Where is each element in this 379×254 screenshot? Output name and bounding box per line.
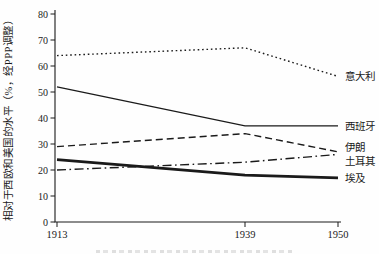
series-label-turkey: 土耳其	[345, 155, 375, 167]
y-tick-label: 10	[38, 191, 48, 202]
y-tick-label: 70	[38, 35, 48, 46]
series-line-italy	[57, 48, 338, 77]
chart: 相对于西欧和美国的水平（%，经PPP调整） 010203040506070801…	[0, 0, 379, 254]
plot-area: 01020304050607080191319391950意大利西班牙伊朗土耳其…	[38, 9, 375, 240]
y-tick-label: 0	[43, 217, 48, 228]
series-label-egypt: 埃及	[345, 172, 366, 184]
series-label-iran: 伊朗	[345, 142, 365, 153]
y-tick-label: 30	[38, 139, 48, 150]
y-tick-label: 60	[38, 61, 48, 72]
y-tick-label: 50	[38, 87, 48, 98]
series-label-italy: 意大利	[345, 70, 375, 82]
x-tick-label: 1950	[328, 229, 349, 240]
y-tick-label: 40	[38, 113, 48, 124]
series-line-spain	[57, 87, 338, 126]
cropped-caption-remnant	[96, 250, 294, 253]
line-chart-figure: 相对于西欧和美国的水平（%，经PPP调整） 010203040506070801…	[0, 0, 379, 254]
y-tick-label: 20	[38, 165, 48, 176]
x-tick-label: 1939	[235, 229, 256, 240]
series-line-iran	[57, 134, 338, 152]
y-tick-label: 80	[38, 9, 48, 20]
x-tick-label: 1913	[47, 229, 68, 240]
y-axis-title: 相对于西欧和美国的水平（%，经PPP调整）	[2, 15, 14, 222]
series-label-spain: 西班牙	[345, 121, 375, 132]
